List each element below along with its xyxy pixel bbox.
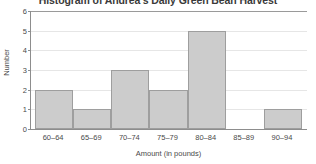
x-axis-tick-labels: 60–6465–6970–7475–7980–8485–8990–94	[30, 133, 307, 147]
x-axis-tick-label: 85–89	[233, 133, 254, 142]
x-axis-tick-label: 70–74	[119, 133, 140, 142]
x-axis-tick-label: 65–69	[81, 133, 102, 142]
histogram-bar	[264, 109, 302, 129]
y-axis-tick-label: 0	[23, 125, 27, 134]
y-axis-tick-label: 4	[23, 46, 27, 55]
x-axis-tick-label: 90–94	[271, 133, 292, 142]
y-axis-tick-label: 2	[23, 85, 27, 94]
x-axis-title: Amount (in pounds)	[30, 149, 307, 158]
x-axis-tick-label: 75–79	[157, 133, 178, 142]
histogram-bar	[149, 90, 187, 129]
y-axis-tick-mark	[28, 129, 31, 130]
bar-series	[31, 11, 307, 129]
histogram-bar	[111, 70, 149, 129]
y-axis-tick-label: 1	[23, 105, 27, 114]
y-axis-tick-label: 5	[23, 26, 27, 35]
histogram-chart: Histogram of Andrea's Daily Green Bean H…	[0, 0, 316, 164]
histogram-bar	[73, 109, 111, 129]
x-axis-tick-label: 60–64	[43, 133, 64, 142]
x-axis-tick-label: 80–84	[195, 133, 216, 142]
y-axis-tick-label: 6	[23, 7, 27, 16]
plot-area: 0123456	[30, 11, 307, 130]
chart-title: Histogram of Andrea's Daily Green Bean H…	[0, 0, 316, 6]
y-axis-title: Number	[2, 33, 11, 93]
histogram-bar	[188, 31, 226, 129]
histogram-bar	[35, 90, 73, 129]
y-axis-tick-label: 3	[23, 66, 27, 75]
